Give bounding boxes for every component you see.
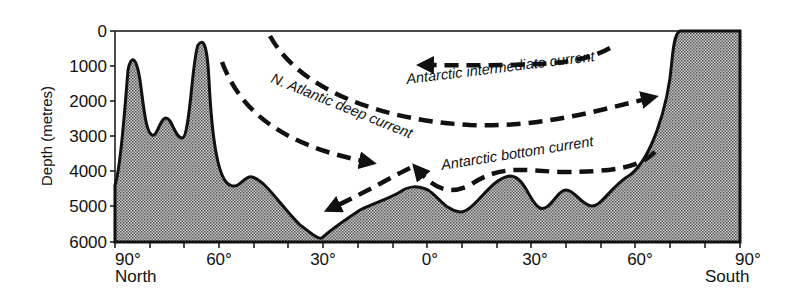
y-tick-label: 2000 bbox=[69, 92, 107, 111]
y-axis-labels: 0 1000 2000 3000 4000 5000 6000 bbox=[69, 22, 107, 252]
x-axis-labels: 90° 60° 30° 0° 30° 60° 90° North South bbox=[115, 250, 761, 286]
x-tick-label: 30° bbox=[522, 250, 548, 269]
x-tick-label: 30° bbox=[310, 250, 336, 269]
x-tick-label: 60° bbox=[206, 250, 232, 269]
x-tick-label: 60° bbox=[627, 250, 653, 269]
y-tick-label: 1000 bbox=[69, 57, 107, 76]
ocean-circulation-diagram: 0 1000 2000 3000 4000 5000 6000 Depth (m… bbox=[0, 0, 793, 301]
y-tick-label: 6000 bbox=[69, 233, 107, 252]
x-tick-label: 0° bbox=[422, 250, 438, 269]
seafloor-profile bbox=[115, 31, 740, 242]
n-atlantic-deep-current-label: N. Atlantic deep current bbox=[269, 70, 416, 142]
y-tick-label: 4000 bbox=[69, 162, 107, 181]
south-label: South bbox=[705, 267, 749, 286]
antarctic-bottom-current-label: Antarctic bottom current bbox=[439, 133, 595, 173]
north-label: North bbox=[115, 267, 157, 286]
y-tick-label: 5000 bbox=[69, 197, 107, 216]
antarctic-intermediate-current-label: Antarctic intermediate current bbox=[404, 48, 596, 87]
y-tick-label: 0 bbox=[98, 22, 107, 41]
y-axis-title: Depth (metres) bbox=[38, 86, 55, 186]
y-tick-label: 3000 bbox=[69, 127, 107, 146]
